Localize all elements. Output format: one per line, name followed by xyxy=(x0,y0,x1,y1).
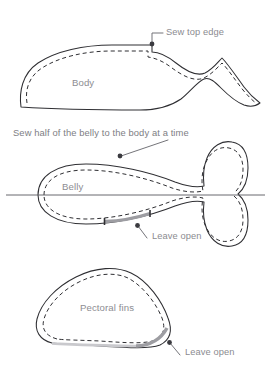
fins-leave-open-leader-line xyxy=(170,343,180,355)
body-outline xyxy=(20,45,260,110)
pattern-illustration xyxy=(0,0,271,378)
belly-caption-label: Sew half of the belly to the body at a t… xyxy=(13,128,189,138)
belly-label: Belly xyxy=(62,182,83,193)
fins-leave-open-leader-dot xyxy=(167,340,172,345)
sew-top-edge-leader-dot xyxy=(150,42,155,47)
sew-top-edge-label: Sew top edge xyxy=(166,27,224,37)
body-label: Body xyxy=(72,78,94,89)
sewing-pattern-diagram: Sew top edge Body Sew half of the belly … xyxy=(0,0,271,378)
belly-outline xyxy=(38,142,248,247)
fins-leave-open-leader xyxy=(167,340,180,355)
pectoral-fins-label: Pectoral fins xyxy=(80,303,134,314)
body-piece xyxy=(20,45,260,110)
belly-piece xyxy=(6,142,265,247)
belly-leave-open-leader-line xyxy=(138,226,147,238)
belly-caption-leader-dot xyxy=(118,154,123,159)
fins-leave-open-label: Leave open xyxy=(185,347,235,357)
belly-leave-open-label: Leave open xyxy=(152,231,202,241)
sew-top-edge-leader xyxy=(150,33,163,46)
belly-caption-leader-line xyxy=(121,140,168,156)
belly-leave-open-leader-dot xyxy=(135,223,140,228)
belly-caption-leader xyxy=(118,140,168,158)
belly-leave-open-leader xyxy=(135,223,147,238)
